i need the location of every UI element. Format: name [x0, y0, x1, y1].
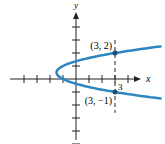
point-label: (3, 2)	[90, 40, 112, 52]
data-point	[113, 90, 118, 95]
data-point	[113, 51, 118, 56]
x-tick-label: 3	[118, 82, 123, 92]
x-axis-label: x	[145, 73, 151, 84]
parabola-chart: x y 3 (3, 2)(3, −1)	[0, 0, 165, 144]
point-label: (3, −1)	[85, 95, 112, 107]
y-axis-arrow	[73, 12, 79, 19]
x-axis-arrow	[134, 76, 141, 82]
y-axis-label: y	[73, 0, 78, 10]
parabola-curve	[57, 47, 161, 99]
